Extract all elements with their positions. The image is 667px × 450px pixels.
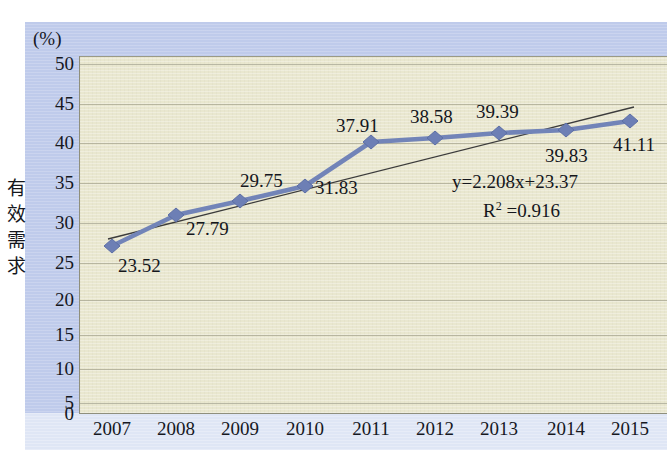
- gridline-35: [80, 183, 667, 184]
- gridline-10: [80, 369, 667, 370]
- y-tick-10: 10: [40, 359, 74, 378]
- x-tick-2009: 2009: [211, 418, 269, 440]
- y-axis-line: [79, 56, 80, 414]
- gridline-15: [80, 335, 667, 336]
- gridline-20: [80, 300, 667, 301]
- data-label-2010: 31.83: [315, 177, 358, 199]
- gridline-50: [80, 64, 667, 65]
- y-tick-0: 0: [40, 404, 74, 423]
- chart-screenshot: (%) 有 效 需 求 50 45 40 35 30 25 20 15 10 5…: [0, 0, 667, 450]
- r-squared-value: =0.916: [502, 200, 560, 221]
- y-tick-50: 50: [40, 54, 74, 73]
- gridline-25: [80, 263, 667, 264]
- data-label-2014: 39.83: [545, 145, 588, 167]
- trendline-equation: y=2.208x+23.37: [452, 171, 578, 193]
- y-axis-title-char-3: 需: [4, 227, 28, 253]
- gridline-40: [80, 143, 667, 144]
- trendline-r-squared: R2 =0.916: [483, 199, 560, 222]
- gridline-30: [80, 223, 667, 224]
- y-tick-25: 25: [40, 253, 74, 272]
- data-label-2008: 27.79: [186, 218, 229, 240]
- data-label-2009: 29.75: [240, 170, 283, 192]
- x-tick-2013: 2013: [470, 418, 528, 440]
- gridline-45: [80, 104, 667, 105]
- y-tick-30: 30: [40, 213, 74, 232]
- x-tick-2007: 2007: [83, 418, 141, 440]
- y-tick-35: 35: [40, 173, 74, 192]
- y-tick-45: 45: [40, 94, 74, 113]
- y-tick-15: 15: [40, 325, 74, 344]
- plot-area: [80, 56, 667, 413]
- data-label-2013: 39.39: [476, 101, 519, 123]
- x-tick-2011: 2011: [342, 418, 400, 440]
- data-label-2007: 23.52: [118, 255, 161, 277]
- r-squared-prefix: R: [483, 200, 496, 221]
- y-tick-20: 20: [40, 290, 74, 309]
- data-label-2012: 38.58: [410, 106, 453, 128]
- x-tick-2010: 2010: [276, 418, 334, 440]
- y-axis-title: 有 效 需 求: [4, 175, 28, 279]
- y-tick-40: 40: [40, 133, 74, 152]
- y-axis-title-char-4: 求: [4, 253, 28, 279]
- x-tick-2012: 2012: [406, 418, 464, 440]
- x-tick-2015: 2015: [601, 418, 659, 440]
- gridline-5: [80, 403, 667, 404]
- y-axis-title-char-1: 有: [4, 175, 28, 201]
- x-tick-2014: 2014: [537, 418, 595, 440]
- data-label-2015: 41.11: [613, 134, 655, 156]
- y-axis-title-char-2: 效: [4, 201, 28, 227]
- y-tick-labels: 50 45 40 35 30 25 20 15 10 5 0: [36, 0, 74, 450]
- x-axis-line: [79, 413, 667, 414]
- data-label-2011: 37.91: [336, 115, 379, 137]
- x-tick-2008: 2008: [147, 418, 205, 440]
